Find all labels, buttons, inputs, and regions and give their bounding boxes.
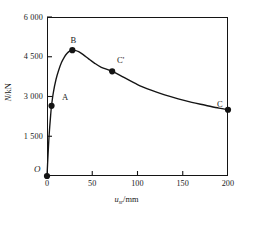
marker-cprime [109, 68, 115, 74]
plot-canvas [47, 17, 228, 176]
y-axis-title: N/kN [5, 62, 13, 122]
x-tick-label-150: 150 [168, 180, 198, 188]
origin-label: O [34, 165, 41, 174]
data-markers [44, 47, 231, 179]
x-tick-label-100: 100 [123, 180, 153, 188]
y-tick-label-1500: 1 500 [0, 133, 43, 141]
y-axis-symbol: N [4, 96, 13, 102]
marker-a [48, 103, 54, 109]
x-tick-label-0: 0 [32, 180, 62, 188]
x-axis-title: usr/mm [0, 196, 253, 206]
marker-c [225, 107, 231, 113]
x-axis-ticks [92, 171, 183, 176]
y-tick-label-4500: 4 500 [0, 53, 43, 61]
y-axis-unit: kN [4, 83, 13, 93]
y-tick-label-6000: 6 000 [0, 14, 43, 22]
marker-o [44, 173, 50, 179]
x-axis-unit: mm [125, 195, 138, 204]
figure-container: 6 000 4 500 3 000 1 500 0 50 100 150 200… [0, 0, 253, 225]
data-curve [47, 50, 228, 176]
x-tick-label-50: 50 [77, 180, 107, 188]
marker-b [69, 47, 75, 53]
x-tick-label-200: 200 [213, 180, 243, 188]
y-axis-separator: / [4, 93, 13, 95]
y-axis-ticks [47, 17, 52, 136]
